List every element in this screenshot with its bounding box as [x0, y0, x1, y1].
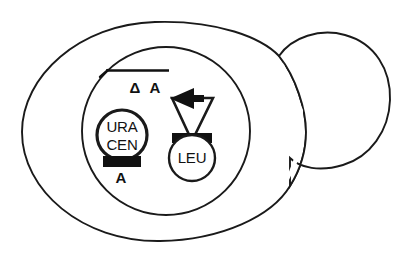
ura-cen-label-line1: URA	[106, 118, 137, 135]
ura-cen-marker-label: A	[116, 169, 127, 186]
diagram-canvas: Δ A URA CEN A LEU	[0, 0, 405, 261]
ura-cen-insert-bar	[103, 156, 141, 167]
leu-label: LEU	[178, 149, 207, 166]
ura-cen-label-line2: CEN	[106, 136, 137, 153]
yeast-cell-diagram: Δ A URA CEN A LEU	[0, 0, 405, 261]
chromosome-delta-symbol: Δ	[130, 79, 141, 96]
chromosome-allele-label: A	[150, 79, 161, 96]
leu-plasmid-group: LEU	[169, 88, 215, 181]
